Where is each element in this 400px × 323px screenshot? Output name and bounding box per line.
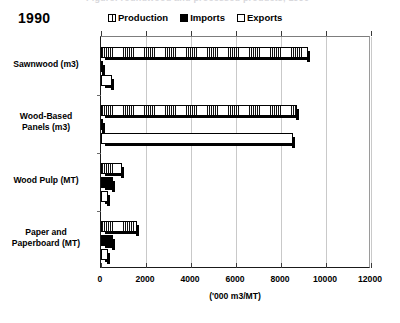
- x-axis-tick: [146, 263, 147, 268]
- bar-production-1: [101, 47, 308, 58]
- bar-production-4: [101, 221, 137, 232]
- bar-shadow: [105, 259, 110, 262]
- bar-imports-4: [101, 235, 113, 246]
- x-axis-tick: [371, 263, 372, 268]
- bar-shadow: [105, 173, 124, 176]
- x-axis-tick: [236, 31, 237, 36]
- x-axis-tick: [236, 263, 237, 268]
- plot-area: [100, 36, 370, 268]
- bar-imports-3: [101, 177, 113, 188]
- x-axis-tick: [146, 31, 147, 36]
- y-axis-tick: [97, 211, 101, 212]
- x-tick-label: 10000: [313, 274, 337, 284]
- y-axis-tick: [97, 153, 101, 154]
- bar-exports-2: [101, 133, 293, 144]
- x-tick-label: 0: [98, 274, 103, 284]
- category-label-2: Wood-BasedPanels (m3): [0, 111, 94, 133]
- x-tick-label: 2000: [135, 274, 154, 284]
- x-tick-label: 4000: [180, 274, 199, 284]
- x-gridline: [326, 37, 327, 267]
- x-axis-tick: [281, 263, 282, 268]
- x-gridline: [281, 37, 282, 267]
- bar-shadow: [105, 231, 139, 234]
- x-axis-title: ('000 m3/MT): [0, 291, 400, 301]
- x-gridline: [371, 37, 372, 267]
- x-tick-label: 6000: [225, 274, 244, 284]
- bar-exports-3: [101, 191, 108, 202]
- x-gridline: [236, 37, 237, 267]
- x-tick-label: 12000: [358, 274, 382, 284]
- bar-shadow: [105, 245, 115, 248]
- x-axis-tick: [326, 263, 327, 268]
- bar-imports-1: [101, 61, 103, 72]
- bar-shadow: [105, 201, 110, 204]
- chart-canvas: 020004000600080001000012000Sawnwood (m3)…: [0, 0, 400, 323]
- bar-exports-1: [101, 75, 112, 86]
- bar-production-3: [101, 163, 122, 174]
- bar-shadow: [105, 85, 114, 88]
- x-axis-tick: [371, 31, 372, 36]
- x-axis-tick: [191, 263, 192, 268]
- x-gridline: [191, 37, 192, 267]
- bar-shadow: [105, 187, 115, 190]
- x-tick-label: 8000: [270, 274, 289, 284]
- x-gridline: [146, 37, 147, 267]
- bar-shadow: [105, 57, 310, 60]
- y-axis-tick: [97, 95, 101, 96]
- x-axis-tick: [191, 31, 192, 36]
- x-axis-tick: [101, 263, 102, 268]
- category-label-3: Wood Pulp (MT): [0, 175, 94, 186]
- bar-shadow: [105, 115, 299, 118]
- category-label-4: Paper andPaperboard (MT): [0, 227, 94, 249]
- bar-exports-4: [101, 249, 108, 260]
- x-axis-tick: [101, 31, 102, 36]
- bar-shadow: [105, 143, 295, 146]
- x-axis-tick: [326, 31, 327, 36]
- bar-imports-2: [101, 119, 103, 130]
- category-label-1: Sawnwood (m3): [0, 59, 94, 70]
- bar-production-2: [101, 105, 297, 116]
- x-axis-tick: [281, 31, 282, 36]
